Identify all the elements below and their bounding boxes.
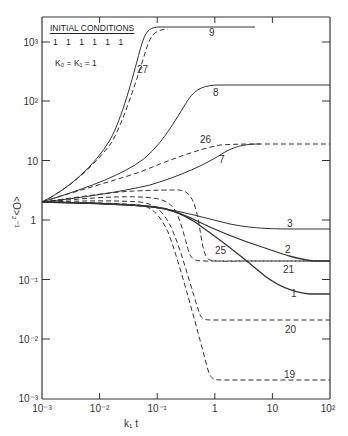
- curve-label-3: 3: [287, 218, 293, 229]
- curve-label-7: 7: [219, 154, 225, 165]
- x-tick-label: 10⁻³: [32, 403, 52, 414]
- curve-label-25: 25: [215, 245, 227, 256]
- initial-conditions-annotation: INITIAL CONDITIONS 1 1 1 1 1 1 K₀ = K₁ =…: [50, 23, 135, 68]
- y-tick-label: 10⁻¹: [19, 275, 39, 286]
- x-tick-label: 10: [267, 403, 279, 414]
- curve-label-26: 26: [200, 134, 212, 145]
- curve-9: [42, 27, 255, 202]
- curve-label-1: 1: [291, 288, 297, 299]
- y-axis-ticks: [42, 42, 330, 339]
- curve-label-9: 9: [209, 27, 215, 38]
- curve-27: [42, 29, 168, 202]
- curve-26: [42, 144, 330, 202]
- x-tick-label: 1: [212, 403, 218, 414]
- annotation-initial-values: 1 1 1 1 1 1: [53, 37, 126, 47]
- x-tick-label: 10⁻²: [90, 403, 110, 414]
- x-tick-label: 10⁻¹: [147, 403, 167, 414]
- x-axis-title: k₁ t: [124, 418, 138, 429]
- curve-label-2: 2: [285, 244, 291, 255]
- y-axis-title: <O>₂⁻¹: [11, 196, 22, 228]
- plot-frame: [42, 17, 330, 399]
- y-tick-label: 10³: [24, 37, 39, 48]
- curve-label-27: 27: [137, 64, 149, 75]
- y-tick-label: 10⁻²: [19, 334, 39, 345]
- x-axis-ticks: [100, 17, 273, 399]
- annotation-rate-constants: K₀ = K₁ = 1: [55, 58, 97, 68]
- curve-8: [42, 85, 330, 202]
- y-tick-label: 10²: [24, 96, 39, 107]
- y-tick-label: 1: [30, 215, 36, 226]
- curve-label-8: 8: [213, 87, 219, 98]
- chart-canvas: 10⁻³ 10⁻² 10⁻¹ 1 10 10² 10⁻³ 10⁻² 10⁻¹ 1…: [0, 0, 348, 436]
- y-tick-label: 10: [27, 156, 39, 167]
- y-tick-label: 10⁻³: [19, 393, 39, 404]
- x-tick-label: 10²: [321, 403, 336, 414]
- curve-label-20: 20: [285, 324, 297, 335]
- curve-label-19: 19: [284, 369, 296, 380]
- annotation-header: INITIAL CONDITIONS: [50, 23, 135, 33]
- curve-label-21: 21: [283, 264, 295, 275]
